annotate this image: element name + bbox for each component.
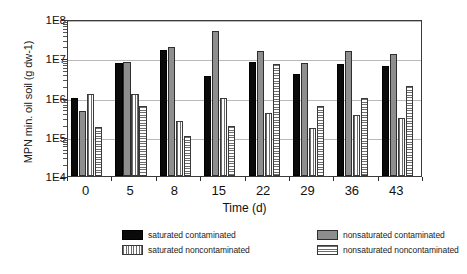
x-axis-tick-label: 36 <box>332 183 372 198</box>
bar <box>87 94 94 176</box>
bar <box>345 51 352 176</box>
legend-swatch <box>317 245 338 255</box>
bar <box>176 121 183 176</box>
bar <box>79 111 86 176</box>
bar <box>168 47 175 176</box>
legend-swatch <box>122 245 143 255</box>
bar <box>390 54 397 176</box>
x-axis-tick <box>200 177 201 181</box>
x-axis-tick <box>111 177 112 181</box>
x-axis-tick <box>422 177 423 181</box>
x-axis-tick-label: 0 <box>66 183 106 198</box>
x-axis-tick-label: 5 <box>110 183 150 198</box>
x-axis-title: Time (d) <box>67 201 422 215</box>
y-axis-tick-label: 1E4 <box>20 171 66 183</box>
bar <box>301 63 308 176</box>
bar <box>123 62 130 176</box>
x-axis-tick <box>333 177 334 181</box>
bar <box>293 74 300 176</box>
bar <box>71 98 78 177</box>
y-axis-tick-label: 1E5 <box>20 132 66 144</box>
legend-item: nonsaturated noncontaminated <box>317 245 459 255</box>
bar <box>139 106 146 176</box>
legend-swatch <box>122 230 143 240</box>
bar <box>220 98 227 177</box>
bar <box>309 128 316 176</box>
bar <box>184 136 191 176</box>
x-axis-tick <box>289 177 290 181</box>
gridline <box>68 21 421 22</box>
bar <box>257 51 264 176</box>
bar <box>406 86 413 176</box>
y-axis-tick-label: 1E6 <box>20 93 66 105</box>
x-axis-tick <box>67 177 68 181</box>
x-axis-tick-label: 29 <box>288 183 328 198</box>
bar <box>212 31 219 176</box>
bar <box>398 118 405 176</box>
legend-item: saturated noncontaminated <box>122 245 250 255</box>
bar <box>249 62 256 176</box>
gridline <box>68 60 421 61</box>
bar <box>115 63 122 176</box>
legend-label: saturated contaminated <box>148 230 236 240</box>
bar <box>317 106 324 176</box>
chart-legend: saturated contaminatedsaturated nonconta… <box>122 230 452 264</box>
x-axis-tick-label: 22 <box>243 183 283 198</box>
legend-swatch <box>317 230 338 240</box>
x-axis-tick-label: 15 <box>199 183 239 198</box>
bar <box>273 64 280 176</box>
x-axis-tick <box>378 177 379 181</box>
bar <box>95 127 102 176</box>
bar <box>228 126 235 176</box>
bar <box>131 94 138 176</box>
legend-label: nonsaturated noncontaminated <box>343 245 459 255</box>
x-axis-tick <box>245 177 246 181</box>
bar <box>382 66 389 176</box>
x-axis-tick-label: 43 <box>376 183 416 198</box>
legend-item: saturated contaminated <box>122 230 236 240</box>
y-axis-tick-label: 1E8 <box>20 14 66 26</box>
bar <box>160 50 167 176</box>
legend-label: saturated noncontaminated <box>148 245 250 255</box>
figure-canvas: MPN min. oil soil (g dw-1) 1E41E51E61E71… <box>0 0 467 274</box>
plot-area <box>67 20 422 177</box>
bar <box>204 76 211 176</box>
bar <box>353 115 360 176</box>
bar <box>337 64 344 176</box>
x-axis-tick-label: 8 <box>154 183 194 198</box>
x-axis-tick <box>156 177 157 181</box>
bar <box>265 113 272 176</box>
bar <box>361 98 368 177</box>
legend-label: nonsaturated contaminated <box>343 230 445 240</box>
y-axis-tick-label: 1E7 <box>20 53 66 65</box>
legend-item: nonsaturated contaminated <box>317 230 445 240</box>
